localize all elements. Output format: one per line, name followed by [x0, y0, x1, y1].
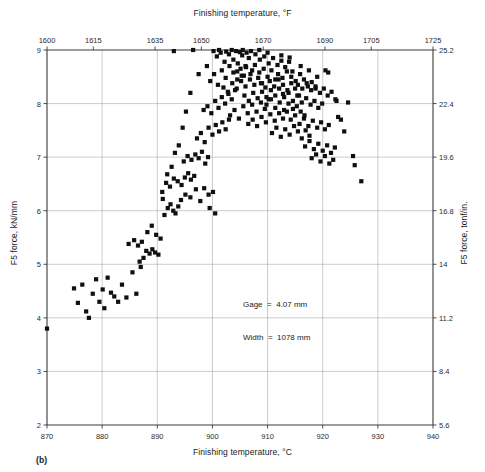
data-point	[320, 101, 324, 105]
data-point	[300, 100, 304, 104]
data-point	[293, 86, 297, 90]
data-point	[197, 72, 201, 76]
data-point	[246, 111, 250, 115]
data-point	[213, 99, 217, 103]
data-point	[304, 96, 308, 100]
data-point	[208, 206, 212, 210]
data-point	[132, 238, 136, 242]
data-point	[296, 83, 300, 87]
data-point	[262, 67, 266, 71]
data-point	[186, 154, 190, 158]
data-point	[248, 72, 252, 76]
data-point	[120, 283, 124, 287]
data-point	[164, 181, 168, 185]
data-point	[270, 131, 274, 135]
data-point	[262, 54, 266, 58]
data-point	[253, 63, 257, 67]
data-point	[263, 85, 267, 89]
data-point	[210, 133, 214, 137]
annotation-width: Width = 1078 mm	[243, 332, 310, 343]
tick-label-bottom: 930	[372, 432, 385, 441]
data-point	[226, 90, 230, 94]
data-point	[323, 154, 327, 158]
data-point	[220, 120, 224, 124]
data-point	[300, 136, 304, 140]
data-point	[220, 68, 224, 72]
data-point	[183, 193, 187, 197]
data-point	[331, 158, 335, 162]
tick-label-right: 25.2	[439, 46, 454, 55]
data-point	[91, 292, 95, 296]
data-point	[251, 91, 255, 95]
data-point	[239, 79, 243, 83]
data-point	[173, 151, 177, 155]
data-point	[176, 179, 180, 183]
data-point	[195, 136, 199, 140]
data-point	[268, 112, 272, 116]
data-point	[291, 99, 295, 103]
data-point	[310, 80, 314, 84]
plot-frame	[47, 50, 433, 425]
data-point	[287, 60, 291, 64]
data-point	[277, 111, 281, 115]
data-point	[263, 107, 267, 111]
data-point	[156, 253, 160, 257]
data-point	[140, 240, 144, 244]
data-point	[292, 124, 296, 128]
data-point	[310, 156, 314, 160]
data-point	[161, 197, 165, 201]
data-point	[253, 52, 257, 56]
data-point	[179, 198, 183, 202]
data-point	[276, 72, 280, 76]
data-point	[203, 140, 207, 144]
data-point	[312, 147, 316, 151]
data-point	[136, 243, 140, 247]
data-point	[198, 199, 202, 203]
data-point	[80, 283, 84, 287]
data-point	[208, 79, 212, 83]
tick-label-top: 1705	[363, 36, 380, 45]
data-point	[279, 135, 283, 139]
data-point	[234, 49, 238, 53]
data-point	[154, 233, 158, 237]
data-point	[305, 81, 309, 85]
data-point	[295, 93, 299, 97]
data-point	[299, 110, 303, 114]
data-point	[294, 79, 298, 83]
data-point	[186, 171, 190, 175]
data-point	[309, 88, 313, 92]
data-point	[145, 230, 149, 234]
tick-label-right: 8.4	[439, 367, 449, 376]
tick-label-left: 9	[37, 46, 41, 55]
data-point	[211, 49, 215, 53]
data-point	[87, 316, 91, 320]
annotation-gage: Gage = 4.07 mm	[243, 299, 310, 310]
data-point	[258, 58, 262, 62]
data-point	[325, 143, 329, 147]
data-point	[76, 301, 80, 305]
data-point	[280, 76, 284, 80]
data-point	[205, 104, 209, 108]
data-point	[278, 100, 282, 104]
data-point	[230, 81, 234, 85]
figure-container: Finishing temperature, °F Finishing temp…	[0, 0, 485, 472]
data-point	[247, 99, 251, 103]
data-point	[141, 256, 145, 260]
tick-label-left: 5	[37, 260, 41, 269]
data-point	[268, 79, 272, 83]
data-point	[183, 175, 187, 179]
data-point	[255, 124, 259, 128]
data-point	[116, 300, 120, 304]
data-point	[199, 131, 203, 135]
data-point	[189, 158, 193, 162]
data-point	[254, 110, 258, 114]
figure-caption: (b)	[36, 455, 47, 465]
data-point	[265, 75, 269, 79]
data-points	[45, 48, 364, 331]
data-point	[130, 270, 134, 274]
data-point	[193, 152, 197, 156]
data-point	[246, 122, 250, 126]
data-point	[313, 84, 317, 88]
data-point	[290, 69, 294, 73]
data-point	[106, 276, 110, 280]
